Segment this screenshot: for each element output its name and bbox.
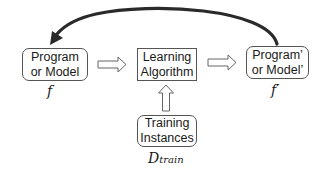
- node-label-line2: Algorithm: [141, 65, 194, 80]
- node-label-line1: Learning: [143, 50, 192, 65]
- symbol-f-prime: f′: [271, 82, 279, 98]
- node-label-line2: Instances: [140, 131, 194, 146]
- arrow-right-icon: [98, 57, 126, 72]
- node-learning-algorithm: Learning Algorithm: [137, 48, 197, 81]
- node-label-line1: Program: [31, 50, 79, 65]
- node-label-line1: Training: [145, 116, 190, 131]
- node-label-line2: or Model’: [252, 63, 303, 78]
- symbol-subscript-train: train: [159, 154, 183, 165]
- arrow-up-icon: [159, 85, 174, 111]
- feedback-curve-arrow: [50, 8, 277, 45]
- symbol-d: D: [148, 150, 159, 166]
- symbol-d-train: Dtrain: [148, 150, 184, 166]
- node-program-or-model: Program or Model: [22, 48, 88, 81]
- symbol-f: f: [47, 83, 52, 99]
- node-label-line2: or Model: [31, 65, 80, 80]
- node-label-line1: Program’: [252, 48, 303, 63]
- node-program-prime-or-model-prime: Program’ or Model’: [246, 46, 309, 79]
- arrow-right-icon: [208, 55, 236, 70]
- node-training-instances: Training Instances: [137, 115, 197, 147]
